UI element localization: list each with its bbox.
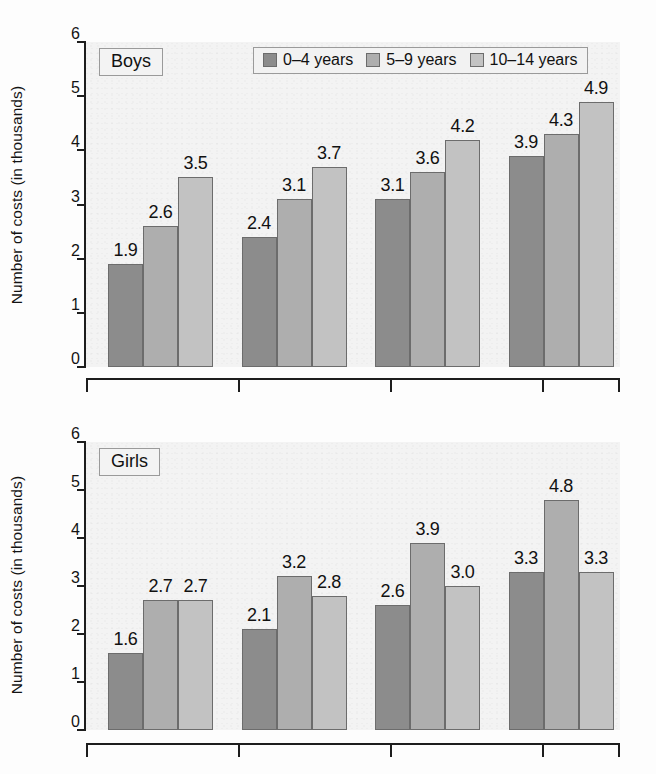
bar-value-label: 2.6 xyxy=(380,581,404,602)
panel-tag-girls: Girls xyxy=(99,448,160,476)
bar: 3.2 xyxy=(277,576,312,730)
bar: 2.8 xyxy=(312,596,347,730)
panel-tag-boys: Boys xyxy=(99,48,163,76)
bar-value-label: 3.2 xyxy=(282,552,306,573)
y-axis-tick-mark xyxy=(77,729,86,731)
bar-group: 2.43.13.7 xyxy=(242,42,347,367)
x-axis-tick xyxy=(542,378,544,392)
bar-value-label: 3.9 xyxy=(415,519,439,540)
bar: 3.9 xyxy=(509,156,544,367)
x-axis-girls xyxy=(86,743,620,757)
bar-value-label: 3.0 xyxy=(450,562,474,583)
bar: 3.3 xyxy=(509,572,544,730)
bar-value-label: 3.9 xyxy=(514,132,538,153)
panel-tag-label: Boys xyxy=(111,51,151,71)
bars-girls: 1.62.72.72.13.22.82.63.93.03.34.83.3 xyxy=(86,442,620,730)
bar: 3.0 xyxy=(445,586,480,730)
bar-group: 3.94.34.9 xyxy=(509,42,614,367)
bar-value-label: 3.6 xyxy=(415,148,439,169)
panel-boys: Number of costs (in thousands) 0123456 1… xyxy=(0,0,656,400)
legend-swatch-icon xyxy=(470,53,484,67)
bar-value-label: 2.4 xyxy=(247,213,271,234)
bar-value-label: 3.7 xyxy=(317,143,341,164)
legend-label: 0–4 years xyxy=(283,51,353,69)
bar-value-label: 2.1 xyxy=(247,605,271,626)
bar-group: 1.92.63.5 xyxy=(108,42,213,367)
bar: 3.9 xyxy=(410,543,445,730)
x-axis-tick xyxy=(390,378,392,392)
y-axis-tick-mark xyxy=(77,258,86,260)
legend-item-5-9-years: 5–9 years xyxy=(366,51,456,69)
legend-swatch-icon xyxy=(263,53,277,67)
bar: 2.6 xyxy=(143,226,178,367)
bar: 4.8 xyxy=(544,500,579,730)
bar-group: 3.34.83.3 xyxy=(509,442,614,730)
y-axis-tick-mark xyxy=(77,95,86,97)
y-axis-tick-mark xyxy=(77,585,86,587)
bar-value-label: 3.1 xyxy=(380,175,404,196)
bar: 1.6 xyxy=(108,653,143,730)
y-axis-tick-mark xyxy=(77,537,86,539)
grouped-bar-chart-figure: Number of costs (in thousands) 0123456 1… xyxy=(0,0,656,774)
bar-group: 2.13.22.8 xyxy=(242,442,347,730)
legend-label: 10–14 years xyxy=(490,51,578,69)
legend-item-0-4-years: 0–4 years xyxy=(263,51,353,69)
bar-value-label: 4.9 xyxy=(584,78,608,99)
bar-value-label: 3.5 xyxy=(183,153,207,174)
bar: 4.9 xyxy=(579,102,614,367)
x-axis-line xyxy=(86,743,620,745)
bar-value-label: 4.2 xyxy=(450,116,474,137)
bar: 3.7 xyxy=(312,167,347,367)
bar-value-label: 4.8 xyxy=(549,476,573,497)
bar-value-label: 4.3 xyxy=(549,110,573,131)
bars-boys: 1.92.63.52.43.13.73.13.64.23.94.34.9 xyxy=(86,42,620,367)
legend-label: 5–9 years xyxy=(386,51,456,69)
bar-value-label: 1.6 xyxy=(113,629,137,650)
x-axis-tick xyxy=(618,378,620,392)
x-axis-tick xyxy=(618,743,620,757)
x-axis-tick xyxy=(238,378,240,392)
y-axis-title-boys: Number of costs (in thousands) xyxy=(0,20,34,370)
bar-value-label: 1.9 xyxy=(113,240,137,261)
bar: 4.3 xyxy=(544,134,579,367)
bar: 3.1 xyxy=(277,199,312,367)
bar: 3.1 xyxy=(375,199,410,367)
bar: 1.9 xyxy=(108,264,143,367)
bar: 4.2 xyxy=(445,140,480,368)
x-axis-tick xyxy=(390,743,392,757)
bar-group: 3.13.64.2 xyxy=(375,42,480,367)
bar-value-label: 2.7 xyxy=(148,576,172,597)
bar-value-label: 2.6 xyxy=(148,202,172,223)
bar: 2.1 xyxy=(242,629,277,730)
y-axis-tick-mark xyxy=(77,489,86,491)
y-axis-tick-mark xyxy=(77,41,86,43)
y-axis-tick-mark xyxy=(77,149,86,151)
legend-swatch-icon xyxy=(366,53,380,67)
x-axis-boys xyxy=(86,378,620,392)
x-axis-tick xyxy=(86,743,88,757)
bar-value-label: 3.3 xyxy=(584,548,608,569)
x-axis-tick xyxy=(542,743,544,757)
y-axis-tick-mark xyxy=(77,366,86,368)
bar-value-label: 2.7 xyxy=(183,576,207,597)
y-axis-tick-mark xyxy=(77,681,86,683)
bar: 2.7 xyxy=(143,600,178,730)
bar-group: 1.62.72.7 xyxy=(108,442,213,730)
y-axis-title-girls: Number of costs (in thousands) xyxy=(0,420,34,750)
x-axis-tick xyxy=(86,378,88,392)
bar: 2.6 xyxy=(375,605,410,730)
y-axis-tick-mark xyxy=(77,633,86,635)
bar-value-label: 2.8 xyxy=(317,572,341,593)
bar-value-label: 3.3 xyxy=(514,548,538,569)
x-axis-tick xyxy=(238,743,240,757)
bar: 2.4 xyxy=(242,237,277,367)
y-axis-tick-mark xyxy=(77,441,86,443)
bar: 3.3 xyxy=(579,572,614,730)
bar: 3.6 xyxy=(410,172,445,367)
bar-value-label: 3.1 xyxy=(282,175,306,196)
bar: 2.7 xyxy=(178,600,213,730)
bar: 3.5 xyxy=(178,177,213,367)
y-axis-tick-mark xyxy=(77,204,86,206)
panel-tag-label: Girls xyxy=(111,451,148,471)
panel-girls: Number of costs (in thousands) 0123456 1… xyxy=(0,398,656,774)
